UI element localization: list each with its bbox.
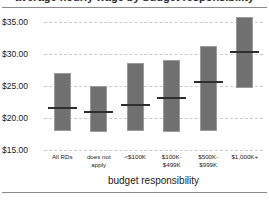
median-line — [157, 97, 186, 99]
x-tick-label: <$100K — [117, 153, 154, 161]
plot-area — [44, 22, 263, 150]
x-tick-label-line: $499K — [154, 161, 191, 169]
chart-container: average hourly wage by budget responsibi… — [0, 0, 269, 200]
median-line — [194, 81, 223, 83]
chart-title-clipped: average hourly wage by budget responsibi… — [0, 0, 269, 7]
median-line — [84, 111, 113, 113]
top-divider — [2, 7, 267, 8]
range-bar — [54, 73, 71, 131]
range-bar — [90, 86, 107, 132]
median-line — [48, 107, 77, 109]
gridline — [44, 150, 263, 151]
x-tick-label-line: <$100K — [117, 153, 154, 161]
x-tick-label-line: $100K- — [154, 153, 191, 161]
x-tick-label-line: $999K — [190, 161, 227, 169]
x-tick-label: $500K-$999K — [190, 153, 227, 168]
bottom-divider — [2, 192, 267, 193]
x-tick-label: $100K-$499K — [154, 153, 191, 168]
x-tick-label-line: $500K- — [190, 153, 227, 161]
x-tick-label: $1,000K+ — [227, 153, 264, 161]
y-tick-label: $35.00 — [2, 17, 42, 27]
range-bar — [163, 60, 180, 132]
median-line — [121, 104, 150, 106]
y-tick-label: $25.00 — [2, 81, 42, 91]
gridline — [44, 118, 263, 119]
x-tick-label-line: All RDs — [44, 153, 81, 161]
range-bar — [200, 46, 217, 132]
chart-title: average hourly wage by budget responsibi… — [15, 0, 254, 3]
x-tick-label: does notapply — [81, 153, 118, 168]
y-tick-label: $20.00 — [2, 113, 42, 123]
gridline — [44, 54, 263, 55]
gridline — [44, 22, 263, 23]
x-tick-label: All RDs — [44, 153, 81, 161]
gridline — [44, 86, 263, 87]
x-tick-label-line: does not — [81, 153, 118, 161]
range-bar — [127, 63, 144, 131]
x-tick-label-line: apply — [81, 161, 118, 169]
median-line — [230, 51, 259, 53]
y-tick-label: $30.00 — [2, 49, 42, 59]
x-tick-label-line: $1,000K+ — [227, 153, 264, 161]
x-axis-title: budget responsibility — [44, 175, 263, 186]
y-tick-label: $15.00 — [2, 145, 42, 155]
